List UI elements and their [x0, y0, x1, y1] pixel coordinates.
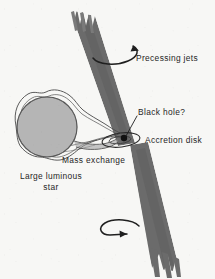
lower-jet-strand — [173, 256, 181, 277]
clockwise-precession-arrow — [101, 220, 139, 238]
precession-arrowhead-lower — [120, 231, 128, 238]
label-large-luminous-star-line2: star — [9, 182, 93, 193]
astrophysics-diagram-figure: Precessing jets Black hole? Accretion di… — [0, 0, 215, 279]
label-large-luminous-star-line1: Large luminous — [9, 171, 93, 182]
star-disc — [17, 97, 77, 157]
label-accretion-disk: Accretion disk — [145, 135, 202, 146]
label-black-hole: Black hole? — [138, 107, 185, 118]
large-luminous-star — [17, 97, 77, 157]
label-precessing-jets: Precessing jets — [136, 53, 198, 64]
upper-jet-core — [80, 18, 131, 144]
label-mass-exchange: Mass exchange — [62, 155, 125, 166]
lower-precessing-jet — [130, 142, 181, 278]
